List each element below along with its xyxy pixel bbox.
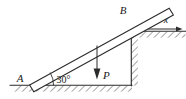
ground-support (10, 85, 132, 91)
force-label: P (102, 69, 110, 81)
diagram-canvas: x 30° P A B (0, 0, 186, 99)
bar-body (30, 8, 174, 92)
force-arrow-head (94, 69, 101, 80)
physics-figure: x 30° P A B (0, 0, 186, 99)
step-wall (131, 31, 186, 86)
point-b-label: B (120, 4, 127, 16)
angle-label: 30° (57, 74, 71, 85)
wall-face-hatching (132, 32, 138, 86)
inclined-bar (30, 8, 174, 92)
point-a-label: A (16, 72, 24, 84)
